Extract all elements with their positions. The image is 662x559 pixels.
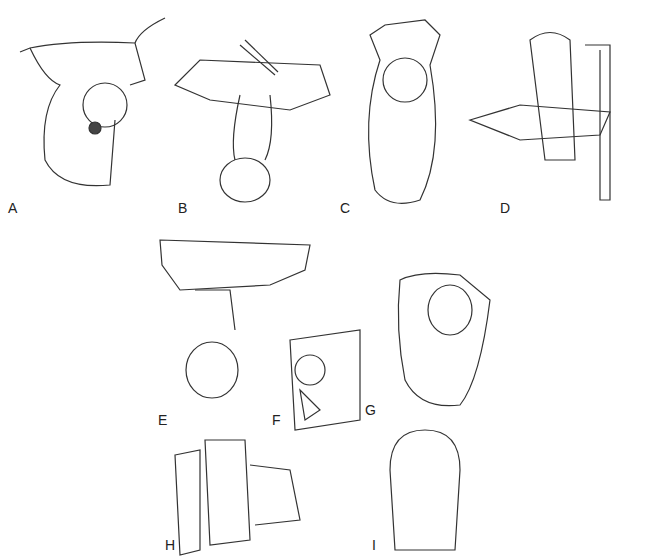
panel-label-h: H — [165, 537, 175, 553]
panel-c-drawing — [369, 20, 440, 203]
panel-label-g: G — [365, 402, 376, 418]
panel-d-drawing — [470, 33, 610, 201]
panel-i-drawing — [390, 430, 460, 550]
panel-label-i: I — [372, 537, 376, 553]
panel-label-b: B — [178, 200, 187, 216]
panel-b-drawing — [175, 40, 330, 202]
panel-f-drawing — [290, 330, 360, 430]
panel-label-c: C — [340, 200, 350, 216]
panel-e-drawing — [160, 240, 310, 398]
panel-label-d: D — [500, 200, 510, 216]
panel-label-e: E — [158, 412, 167, 428]
panel-h-drawing — [175, 440, 300, 555]
panel-label-a: A — [8, 200, 17, 216]
panel-a-drawing — [20, 18, 165, 186]
illustration — [0, 0, 662, 559]
panel-label-f: F — [272, 412, 281, 428]
panel-g-drawing — [398, 273, 490, 405]
